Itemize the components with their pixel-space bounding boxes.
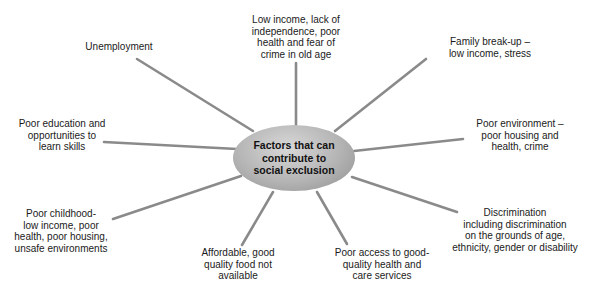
node-poor-education: Poor education and opportunities to lear… (6, 118, 118, 153)
connector-food (242, 192, 273, 245)
connector-family-breakup (335, 59, 426, 131)
node-family-breakup: Family break-up – low income, stress (425, 36, 555, 59)
connector-poor-environment (354, 139, 463, 151)
connector-poor-childhood (113, 176, 241, 219)
node-poor-childhood: Poor childhood- low income, poor health,… (4, 208, 118, 254)
central-hub-label: Factors that can contribute to social ex… (253, 139, 334, 177)
node-food: Affordable, good quality food not availa… (180, 247, 296, 282)
node-unemployment: Unemployment (64, 41, 174, 53)
node-old-age: Low income, lack of independence, poor h… (238, 14, 354, 60)
connector-unemployment (137, 59, 253, 131)
node-health-services: Poor access to good- quality health and … (322, 247, 442, 282)
connector-poor-education (104, 142, 237, 149)
central-hub: Factors that can contribute to social ex… (233, 125, 355, 191)
connector-health-services (317, 192, 347, 244)
node-poor-environment: Poor environment – poor housing and heal… (455, 118, 585, 153)
node-discrimination: Discrimination including discrimination … (442, 207, 588, 253)
